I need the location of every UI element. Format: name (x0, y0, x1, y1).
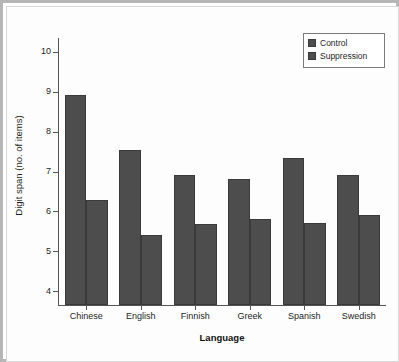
bar-swedish-suppression (359, 215, 381, 305)
y-tick-label: 9 (29, 87, 51, 96)
x-tick-mark (195, 305, 196, 310)
y-tick-label-wrap: 4 (0, 287, 51, 296)
x-tick-mark (141, 305, 142, 310)
category-label-greek: Greek (223, 311, 278, 321)
y-tick-label: 8 (29, 127, 51, 136)
x-tick-mark (359, 305, 360, 310)
bar-finnish-suppression (195, 224, 217, 305)
bar-greek-suppression (250, 219, 272, 305)
bar-spanish-suppression (304, 223, 326, 305)
legend-item-suppression: Suppression (308, 50, 380, 62)
x-tick-mark (86, 305, 87, 310)
x-tick-mark (304, 305, 305, 310)
bar-chart: 45678910 Digit span (no. of items) Chine… (0, 0, 399, 362)
y-tick-mark (53, 251, 58, 252)
bar-chinese-suppression (86, 200, 108, 305)
y-tick-label-wrap: 6 (0, 207, 51, 216)
bar-greek-control (228, 179, 250, 305)
legend-swatch-suppression (308, 52, 316, 60)
legend-label-suppression: Suppression (320, 52, 367, 61)
legend-item-control: Control (308, 37, 380, 49)
y-tick-label: 4 (29, 287, 51, 296)
y-tick-label-wrap: 8 (0, 127, 51, 136)
x-axis-title: Language (58, 332, 386, 343)
y-tick-label: 10 (29, 47, 51, 56)
category-label-finnish: Finnish (168, 311, 223, 321)
y-tick-label-wrap: 7 (0, 167, 51, 176)
y-tick-label-wrap: 9 (0, 87, 51, 96)
y-tick-mark (53, 211, 58, 212)
legend-label-control: Control (320, 39, 347, 48)
y-tick-label: 6 (29, 207, 51, 216)
x-tick-mark (250, 305, 251, 310)
y-tick-mark (53, 291, 58, 292)
y-axis-line (58, 38, 59, 306)
bar-chinese-control (65, 95, 87, 305)
category-label-spanish: Spanish (277, 311, 332, 321)
y-tick-mark (53, 132, 58, 133)
bar-swedish-control (337, 175, 359, 305)
y-tick-mark (53, 92, 58, 93)
bar-finnish-control (174, 175, 196, 305)
y-tick-mark (53, 172, 58, 173)
y-axis-title: Digit span (no. of items) (13, 76, 24, 256)
y-tick-label: 7 (29, 167, 51, 176)
y-tick-label: 5 (29, 247, 51, 256)
y-tick-mark (53, 52, 58, 53)
bar-english-suppression (141, 235, 163, 305)
x-axis-line (58, 305, 386, 306)
bar-spanish-control (283, 158, 305, 305)
category-label-chinese: Chinese (59, 311, 114, 321)
chart-legend: Control Suppression (303, 33, 385, 68)
legend-swatch-control (308, 39, 316, 47)
category-label-swedish: Swedish (332, 311, 387, 321)
category-label-english: English (114, 311, 169, 321)
y-tick-label-wrap: 10 (0, 47, 51, 56)
y-tick-label-wrap: 5 (0, 247, 51, 256)
bar-english-control (119, 150, 141, 305)
